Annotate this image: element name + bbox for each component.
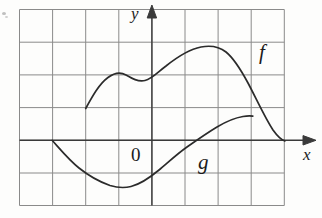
x-axis-label: x [303, 146, 311, 163]
y-axis-arrow-icon [147, 5, 156, 18]
y-axis-label: y [131, 5, 139, 22]
math-figure: f g x y 0 [0, 0, 322, 218]
graph-canvas [0, 0, 322, 218]
axes [20, 5, 317, 206]
curve-label-g: g [198, 152, 209, 173]
origin-label: 0 [131, 145, 141, 164]
curve-label-f: f [259, 42, 265, 63]
x-axis-arrow-icon [303, 136, 316, 145]
